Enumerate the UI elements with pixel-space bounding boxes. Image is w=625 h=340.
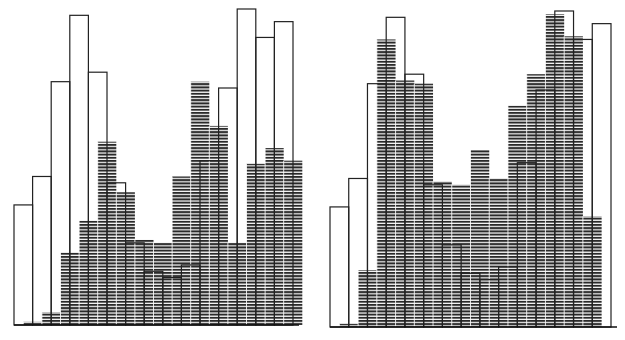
outline-bar bbox=[330, 207, 349, 327]
histogram-left-plot bbox=[0, 0, 312, 340]
outline-bar bbox=[33, 176, 52, 325]
histogram-left bbox=[0, 0, 312, 340]
histogram-right bbox=[312, 0, 625, 340]
histogram-right-plot bbox=[312, 0, 625, 340]
hatched-bars bbox=[339, 14, 601, 327]
outline-bar bbox=[14, 205, 33, 325]
